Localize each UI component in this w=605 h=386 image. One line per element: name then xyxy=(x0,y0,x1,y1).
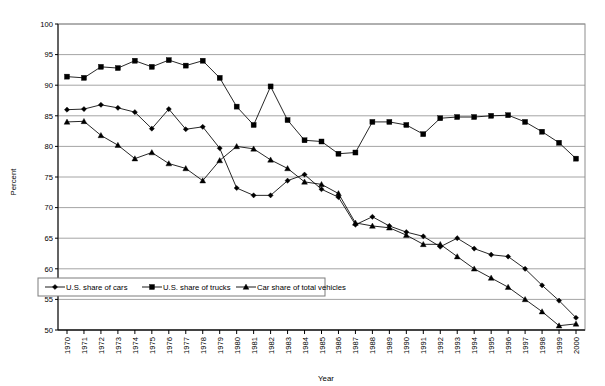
y-tick-label-50: 50 xyxy=(45,326,53,335)
data-point-1-8 xyxy=(200,58,205,63)
data-point-1-3 xyxy=(115,66,120,71)
data-point-1-19 xyxy=(387,119,392,124)
legend-marker-square xyxy=(150,285,155,290)
data-point-2-16 xyxy=(336,191,342,196)
x-tick-label-1994: 1994 xyxy=(470,337,479,354)
data-point-1-26 xyxy=(506,113,511,118)
data-point-1-18 xyxy=(370,119,375,124)
x-tick-label-1978: 1978 xyxy=(199,337,208,354)
x-tick-label-1979: 1979 xyxy=(216,337,225,354)
x-tick-label-1990: 1990 xyxy=(402,337,411,354)
data-point-2-5 xyxy=(149,150,155,155)
data-point-2-26 xyxy=(505,284,511,289)
data-point-1-27 xyxy=(523,119,528,124)
legend-label-1: U.S. share of trucks xyxy=(163,283,231,292)
y-tick-label-70: 70 xyxy=(45,203,53,212)
series-1 xyxy=(65,58,579,162)
x-tick-label-1993: 1993 xyxy=(453,337,462,354)
y-tick-label-90: 90 xyxy=(45,81,53,90)
line-chart: 50556065707580859095100 1970197119721973… xyxy=(0,0,605,386)
x-tick-label-1981: 1981 xyxy=(250,337,259,354)
legend: U.S. share of carsU.S. share of trucksCa… xyxy=(38,278,346,296)
data-point-1-10 xyxy=(234,104,239,109)
data-point-1-2 xyxy=(98,64,103,69)
data-point-1-30 xyxy=(574,156,579,161)
x-tick-label-1989: 1989 xyxy=(385,337,394,354)
data-point-1-6 xyxy=(166,58,171,63)
data-point-2-12 xyxy=(268,157,274,162)
data-point-1-17 xyxy=(353,150,358,155)
data-point-1-16 xyxy=(336,151,341,156)
x-tick-label-1977: 1977 xyxy=(182,337,191,354)
data-point-1-0 xyxy=(65,74,70,79)
data-point-1-12 xyxy=(268,84,273,89)
data-point-1-4 xyxy=(132,58,137,63)
data-point-0-10 xyxy=(234,185,239,190)
x-tick-label-1995: 1995 xyxy=(487,337,496,354)
x-tick-label-1992: 1992 xyxy=(436,337,445,354)
data-point-1-21 xyxy=(421,132,426,137)
y-tick-label-65: 65 xyxy=(45,234,53,243)
data-point-1-15 xyxy=(319,139,324,144)
data-point-2-6 xyxy=(166,161,172,166)
data-point-2-25 xyxy=(488,275,494,280)
data-point-1-9 xyxy=(217,75,222,80)
data-point-1-25 xyxy=(489,113,494,118)
data-point-1-1 xyxy=(81,75,86,80)
y-tick-label-75: 75 xyxy=(45,173,53,182)
data-point-0-3 xyxy=(115,105,120,110)
x-tick-label-1988: 1988 xyxy=(368,337,377,354)
data-point-0-25 xyxy=(489,252,494,257)
data-point-0-18 xyxy=(370,214,375,219)
data-point-1-23 xyxy=(455,115,460,120)
x-tick-label-1996: 1996 xyxy=(504,337,513,354)
x-axis-ticks: 1970197119721973197419751976197719781979… xyxy=(63,330,581,354)
data-point-1-7 xyxy=(183,63,188,68)
y-tick-label-55: 55 xyxy=(45,295,53,304)
data-point-2-30 xyxy=(573,321,579,326)
x-tick-label-1980: 1980 xyxy=(233,337,242,354)
data-point-1-20 xyxy=(404,122,409,127)
y-tick-label-85: 85 xyxy=(45,112,53,121)
data-point-0-2 xyxy=(98,102,103,107)
x-axis-title: Year xyxy=(318,374,334,383)
data-point-0-0 xyxy=(64,107,69,112)
x-tick-label-1991: 1991 xyxy=(419,337,428,354)
data-point-1-5 xyxy=(149,64,154,69)
x-tick-label-1975: 1975 xyxy=(148,337,157,354)
data-point-0-24 xyxy=(472,246,477,251)
data-point-2-23 xyxy=(454,254,460,259)
data-point-1-13 xyxy=(285,118,290,123)
x-tick-label-1974: 1974 xyxy=(131,337,140,354)
x-tick-label-1972: 1972 xyxy=(97,337,106,354)
y-tick-label-95: 95 xyxy=(45,50,53,59)
data-point-0-1 xyxy=(81,106,86,111)
data-point-0-11 xyxy=(251,193,256,198)
legend-label-2: Car share of total vehicles xyxy=(257,283,346,292)
x-tick-label-1985: 1985 xyxy=(318,337,327,354)
x-tick-label-1970: 1970 xyxy=(63,337,72,354)
y-tick-label-100: 100 xyxy=(40,20,53,29)
x-tick-label-1973: 1973 xyxy=(114,337,123,354)
data-point-1-29 xyxy=(557,140,562,145)
x-tick-label-1998: 1998 xyxy=(538,337,547,354)
x-tick-label-1999: 1999 xyxy=(555,337,564,354)
series-2 xyxy=(64,118,579,328)
x-tick-label-1982: 1982 xyxy=(267,337,276,354)
data-point-1-28 xyxy=(540,129,545,134)
data-point-1-22 xyxy=(438,116,443,121)
data-point-1-14 xyxy=(302,138,307,143)
x-tick-label-1987: 1987 xyxy=(351,337,360,354)
x-tick-label-1986: 1986 xyxy=(334,337,343,354)
data-point-2-28 xyxy=(539,309,545,314)
x-tick-label-2000: 2000 xyxy=(572,337,581,354)
data-point-1-24 xyxy=(472,115,477,120)
data-point-2-13 xyxy=(285,166,291,171)
x-tick-label-1983: 1983 xyxy=(284,337,293,354)
chart-container: 50556065707580859095100 1970197119721973… xyxy=(0,0,605,386)
x-tick-label-1997: 1997 xyxy=(521,337,530,354)
x-tick-label-1976: 1976 xyxy=(165,337,174,354)
x-tick-label-1984: 1984 xyxy=(301,337,310,354)
x-tick-label-1971: 1971 xyxy=(80,337,89,354)
y-tick-label-60: 60 xyxy=(45,265,53,274)
